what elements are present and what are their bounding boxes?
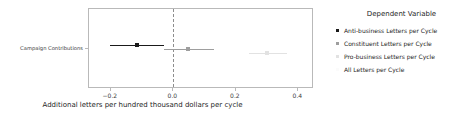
- x-axis-title: Additional letters per hundred thousand …: [0, 101, 373, 109]
- legend-item-label: Anti-business Letters per Cycle: [344, 27, 437, 34]
- legend-marker-icon: [330, 68, 344, 71]
- legend-dot: [336, 55, 339, 58]
- legend-dot: [336, 68, 339, 71]
- point-estimate-marker: [265, 51, 269, 55]
- legend-item-label: Pro-business Letters per Cycle: [344, 53, 435, 60]
- x-axis-tick-label: 0.2: [230, 92, 240, 99]
- legend-item-label: Constituent Letters per Cycle: [344, 40, 432, 47]
- legend-item-label: All Letters per Cycle: [344, 66, 404, 73]
- zero-reference-line: [173, 9, 174, 87]
- legend-marker-icon: [330, 29, 344, 32]
- legend-marker-icon: [330, 55, 344, 58]
- legend-item-1[interactable]: Anti-business Letters per Cycle: [330, 24, 461, 37]
- x-axis-tick: [110, 88, 111, 91]
- x-axis-tick: [235, 88, 236, 91]
- legend-items: Anti-business Letters per CycleConstitue…: [330, 24, 461, 76]
- legend-marker-icon: [330, 42, 344, 45]
- plot-panel: [88, 8, 313, 88]
- legend-item-2[interactable]: Constituent Letters per Cycle: [330, 37, 461, 50]
- y-axis-category-label: Campaign Contributions: [10, 45, 83, 51]
- legend-item-3[interactable]: Pro-business Letters per Cycle: [330, 50, 461, 63]
- point-estimate-marker: [186, 47, 190, 51]
- legend-dot: [336, 42, 339, 45]
- x-axis-tick-label: 0.0: [168, 92, 178, 99]
- x-axis-tick: [297, 88, 298, 91]
- point-estimate-marker: [135, 43, 139, 47]
- legend: Dependent Variable Anti-business Letters…: [330, 10, 461, 76]
- legend-item-4[interactable]: All Letters per Cycle: [330, 63, 461, 76]
- legend-dot: [336, 29, 339, 32]
- chart-figure: Campaign Contributions −0.20.00.20.4 Add…: [0, 0, 461, 114]
- x-axis-tick: [172, 88, 173, 91]
- x-axis-tick-label: −0.2: [103, 92, 118, 99]
- x-axis-tick-label: 0.4: [293, 92, 303, 99]
- legend-title: Dependent Variable: [330, 10, 461, 18]
